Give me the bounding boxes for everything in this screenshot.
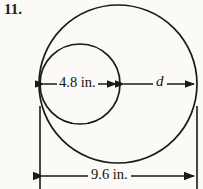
inner-diameter-label: 4.8 in. [57,75,98,90]
outer-diameter-label: 9.6 in. [88,167,131,182]
figure-page: 11. 4.8 in. d 9.6 in. [0,0,203,189]
circle-diagram [0,0,203,189]
gap-label: d [153,74,167,89]
